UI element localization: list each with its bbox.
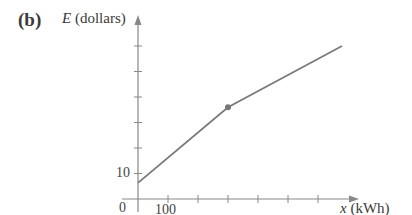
breakpoint-dot [225, 104, 231, 110]
y-axis-arrow-icon [135, 15, 142, 25]
panel-label: (b) [18, 9, 41, 31]
chart-canvas [0, 0, 412, 215]
y-variable: E [62, 10, 71, 26]
data-line [138, 46, 342, 183]
y-tick-label: 10 [116, 165, 130, 181]
x-axis-label: x (kWh) [340, 200, 390, 215]
x-tick-label: 0 [119, 200, 126, 215]
y-axis-label: E (dollars) [62, 10, 126, 27]
y-unit: (dollars) [75, 10, 126, 26]
data-points [225, 104, 231, 110]
x-unit: (kWh) [350, 200, 389, 215]
x-variable: x [340, 200, 347, 215]
x-tick-label: 100 [155, 202, 176, 215]
